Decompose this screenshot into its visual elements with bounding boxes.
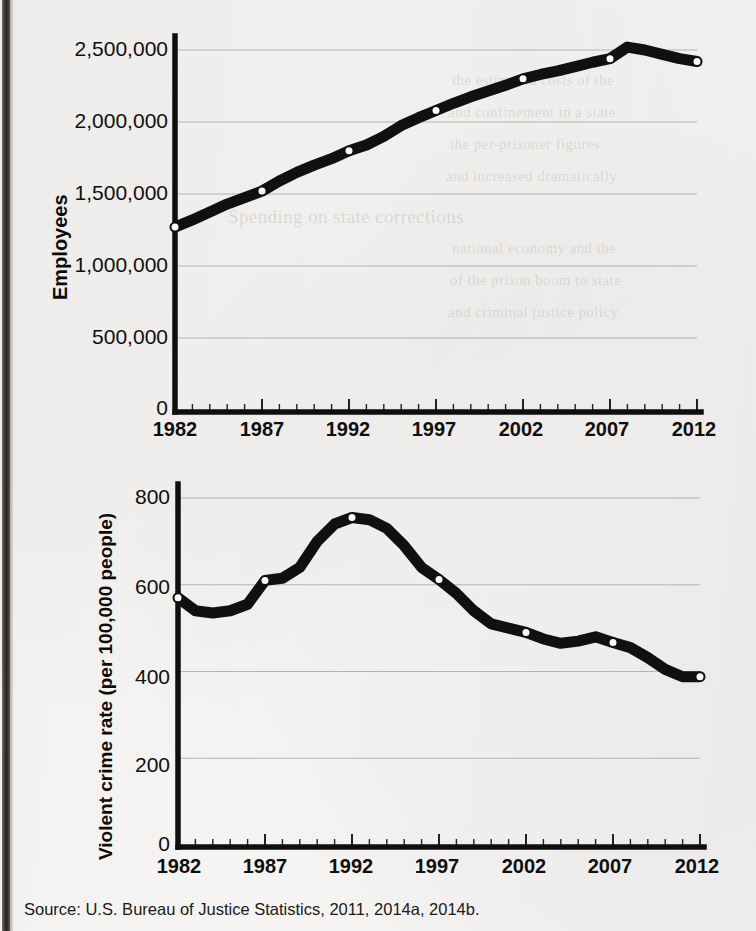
data-point-marker <box>435 575 444 584</box>
data-point-marker <box>432 106 441 115</box>
data-point-marker <box>696 672 705 681</box>
data-point-marker <box>171 223 180 232</box>
data-point-marker <box>348 513 357 522</box>
data-point-marker <box>522 628 531 637</box>
data-point-marker <box>258 187 267 196</box>
data-point-marker <box>609 638 618 647</box>
data-point-marker <box>174 593 183 602</box>
employees-plot-area <box>0 0 756 440</box>
data-point-marker <box>693 57 702 66</box>
data-point-marker <box>606 54 615 63</box>
crime-plot-area <box>0 440 756 890</box>
data-point-marker <box>519 75 528 84</box>
employees-chart: Employees 2,500,000 2,000,000 1,500,000 … <box>0 0 756 440</box>
source-note: Source: U.S. Bureau of Justice Statistic… <box>24 900 480 919</box>
data-point-marker <box>261 576 270 585</box>
violent-crime-chart: Violent crime rate (per 100,000 people) … <box>0 440 756 890</box>
data-point-marker <box>345 147 354 156</box>
